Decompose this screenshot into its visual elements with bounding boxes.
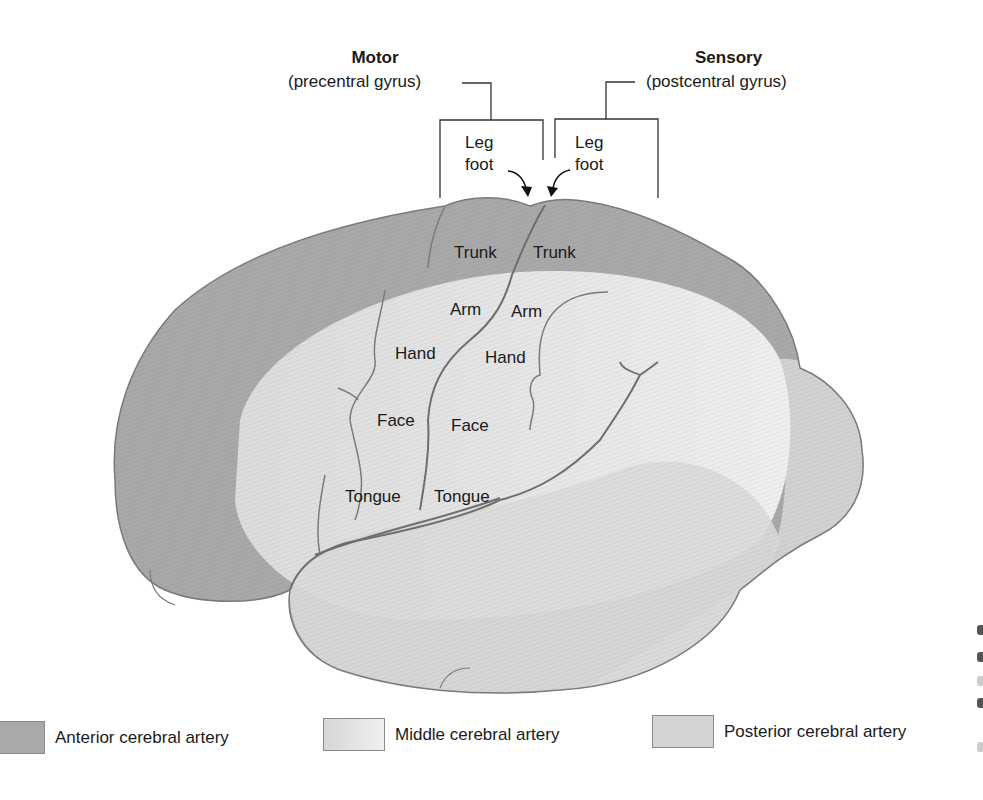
sensory-subtitle: (postcentral gyrus) [646,72,787,92]
legend-label-posterior: Posterior cerebral artery [724,722,906,742]
motor-subtitle: (precentral gyrus) [288,72,421,92]
motor-title: Motor [340,48,410,68]
cropped-text-fragment [977,742,983,752]
cropped-text-fragment [977,652,983,662]
legend-item-anterior: Anterior cerebral artery [0,721,229,754]
sensory-leg-arrow [553,170,570,188]
sensory-foot-label: foot [575,155,603,175]
sensory-leg-label: Leg [575,133,603,153]
sensory-title: Sensory [695,48,762,68]
anterior-swatch [0,721,45,754]
sensory-hand-label: Hand [485,348,526,368]
sensory-tongue-label: Tongue [434,487,490,507]
legend-label-anterior: Anterior cerebral artery [55,728,229,748]
legend-label-middle: Middle cerebral artery [395,725,559,745]
cropped-text-fragment [977,625,983,635]
motor-hand-label: Hand [395,344,436,364]
sensory-face-label: Face [451,416,489,436]
legend-item-posterior: Posterior cerebral artery [652,715,906,748]
sensory-arm-label: Arm [511,302,542,322]
motor-foot-label: foot [465,155,493,175]
motor-arrow-head [521,186,532,197]
sensory-trunk-label: Trunk [533,243,576,263]
motor-tongue-label: Tongue [345,487,401,507]
sensory-arrow-head [547,186,558,197]
brain-diagram [0,0,983,800]
motor-leg-arrow [508,171,526,188]
motor-arm-label: Arm [450,300,481,320]
posterior-swatch [652,715,714,748]
motor-trunk-label: Trunk [454,243,497,263]
cropped-text-fragment [977,698,983,708]
cropped-text-fragment [977,676,983,686]
motor-face-label: Face [377,411,415,431]
legend-item-middle: Middle cerebral artery [323,718,559,751]
motor-leg-label: Leg [465,133,493,153]
sensory-bracket [555,82,658,198]
middle-swatch [323,718,385,751]
